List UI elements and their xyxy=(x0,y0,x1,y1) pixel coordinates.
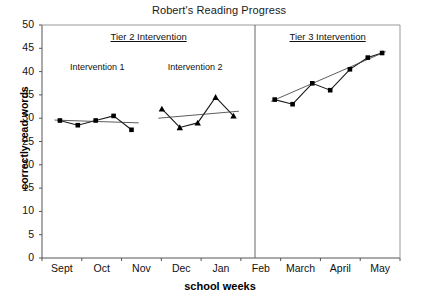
data-point-marker xyxy=(159,106,165,112)
data-point-marker xyxy=(129,128,134,133)
data-point-marker xyxy=(380,51,385,56)
data-line-series-2 xyxy=(275,53,382,104)
data-line-series-0 xyxy=(60,116,132,130)
trend-line-series-1 xyxy=(158,111,239,118)
data-point-marker xyxy=(328,88,333,93)
data-point-marker xyxy=(58,118,63,123)
data-point-marker xyxy=(290,102,295,107)
data-point-marker xyxy=(111,114,116,119)
data-point-marker xyxy=(76,123,81,128)
data-point-marker xyxy=(366,55,371,60)
data-point-marker xyxy=(93,118,98,123)
data-point-marker xyxy=(348,67,353,72)
reading-progress-chart: Robert's Reading Progress correctly read… xyxy=(0,0,438,298)
data-point-marker xyxy=(272,97,277,102)
data-point-marker xyxy=(310,81,315,86)
data-point-marker xyxy=(212,94,218,100)
plot-area xyxy=(0,0,438,298)
